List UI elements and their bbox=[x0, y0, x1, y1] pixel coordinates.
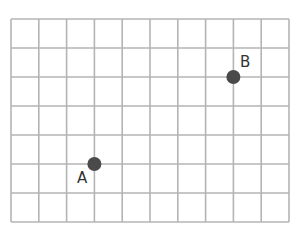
coordinate-grid bbox=[0, 0, 307, 233]
point-label-a: A bbox=[77, 171, 87, 186]
points bbox=[87, 70, 240, 171]
point-a-dot bbox=[87, 157, 101, 171]
point-label-b: B bbox=[240, 55, 250, 70]
point-b-dot bbox=[226, 70, 240, 84]
grid-lines bbox=[11, 19, 289, 222]
